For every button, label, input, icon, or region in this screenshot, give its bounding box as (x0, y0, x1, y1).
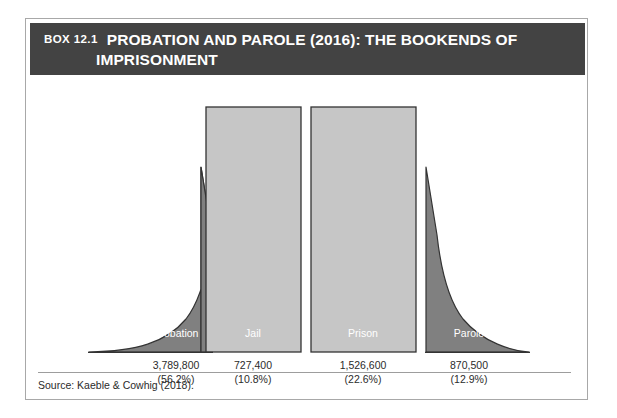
chart-label-probation: Probation (154, 327, 199, 339)
chart-label-parole: Parole (454, 327, 485, 339)
chart-label-prison: Prison (348, 327, 378, 339)
chart-shape-parole (426, 167, 529, 352)
chart-value-percent-parole: (12.9%) (414, 373, 524, 387)
chart-label-jail: Jail (245, 327, 261, 339)
chart-value-number-parole: 870,500 (414, 359, 524, 373)
box-container: BOX 12.1PROBATION AND PAROLE (2016): THE… (25, 18, 588, 400)
chart-bar-prison (311, 107, 416, 352)
chart-svg: Probation Jail Prison Parole (26, 75, 587, 373)
chart-value-percent-prison: (22.6%) (308, 373, 418, 387)
chart-value-percent-jail: (10.8%) (198, 373, 308, 387)
source-note: Source: Kaeble & Cowhig (2018). (38, 379, 194, 391)
chart-value-number-jail: 727,400 (198, 359, 308, 373)
source-divider (38, 372, 571, 373)
box-title-line-1: PROBATION AND PAROLE (2016): THE BOOKEND… (107, 31, 518, 48)
chart-figure: Probation Jail Prison Parole 3,789,800 (… (26, 75, 587, 373)
chart-bar-jail (206, 107, 301, 352)
box-header: BOX 12.1PROBATION AND PAROLE (2016): THE… (30, 23, 585, 75)
box-title-line-2: IMPRISONMENT (44, 49, 571, 70)
box-number-label: BOX 12.1 (44, 33, 98, 45)
chart-value-number-prison: 1,526,600 (308, 359, 418, 373)
chart-shape-probation (89, 167, 212, 352)
box-header-first-line: BOX 12.1PROBATION AND PAROLE (2016): THE… (44, 30, 571, 49)
